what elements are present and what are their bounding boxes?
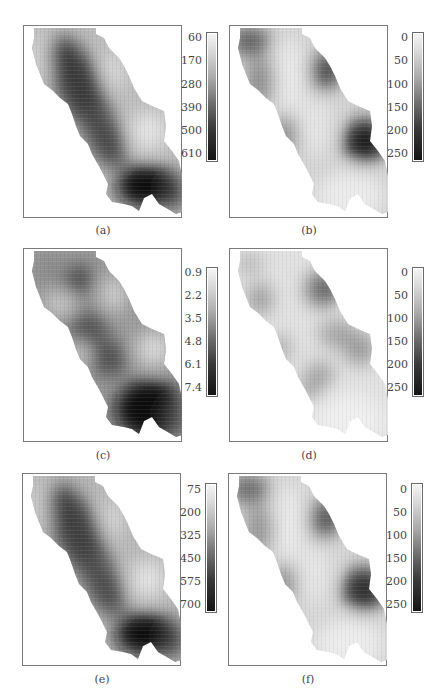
tick-label: 7.4	[166, 382, 202, 394]
caption-f: (f)	[293, 673, 323, 686]
tick-label: 75	[165, 484, 201, 496]
tick-label: 50	[372, 290, 408, 302]
tick-label: 500	[166, 125, 202, 137]
tick-label: 250	[372, 148, 408, 160]
map-frame-d	[229, 248, 388, 442]
map-frame-c	[23, 248, 182, 442]
tick-label: 200	[372, 359, 408, 371]
tick-label: 250	[371, 599, 407, 611]
tick-label: 325	[165, 530, 201, 542]
heatmap-e	[23, 474, 182, 667]
tick-label: 450	[165, 553, 201, 565]
caption-c: (c)	[88, 449, 118, 462]
tick-label: 0	[372, 267, 408, 279]
caption-a: (a)	[88, 224, 118, 237]
tick-label: 390	[166, 102, 202, 114]
colorbar-d	[412, 267, 424, 397]
tick-label: 6.1	[166, 359, 202, 371]
tick-label: 100	[372, 79, 408, 91]
tick-label: 3.5	[166, 313, 202, 325]
map-frame-f	[228, 473, 387, 666]
tick-label: 0	[372, 32, 408, 44]
tick-label: 100	[371, 530, 407, 542]
tick-label: 280	[166, 79, 202, 91]
colorbar-b	[412, 32, 424, 162]
tick-label: 150	[372, 336, 408, 348]
heatmap-a	[24, 26, 183, 219]
colorbar-e	[205, 483, 217, 613]
tick-label: 4.8	[166, 336, 202, 348]
colorbar-a	[206, 32, 218, 162]
heatmap-c	[24, 249, 183, 443]
tick-label: 150	[371, 553, 407, 565]
map-frame-a	[23, 25, 182, 218]
tick-label: 200	[165, 507, 201, 519]
caption-d: (d)	[294, 449, 324, 462]
tick-label: 50	[372, 55, 408, 67]
colorbar-f	[411, 483, 423, 613]
tick-label: 0	[371, 484, 407, 496]
caption-e: (e)	[87, 673, 117, 686]
tick-label: 700	[165, 599, 201, 611]
map-frame-b	[229, 25, 388, 218]
map-frame-e	[22, 473, 181, 666]
tick-label: 60	[166, 32, 202, 44]
tick-label: 200	[371, 576, 407, 588]
heatmap-d	[230, 249, 389, 443]
heatmap-f	[229, 474, 388, 667]
tick-label: 610	[166, 148, 202, 160]
tick-label: 50	[371, 507, 407, 519]
tick-label: 2.2	[166, 290, 202, 302]
caption-b: (b)	[294, 224, 324, 237]
tick-label: 250	[372, 382, 408, 394]
tick-label: 170	[166, 55, 202, 67]
tick-label: 150	[372, 102, 408, 114]
tick-label: 575	[165, 576, 201, 588]
tick-label: 200	[372, 125, 408, 137]
tick-label: 100	[372, 313, 408, 325]
tick-label: 0.9	[166, 267, 202, 279]
heatmap-b	[230, 26, 389, 219]
colorbar-c	[206, 267, 218, 397]
